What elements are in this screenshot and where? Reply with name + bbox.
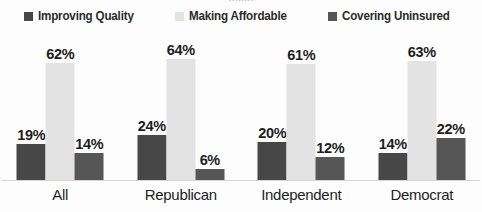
clipped-title: ........ [0,0,482,2]
bar-slot: 62% [46,28,75,180]
category-label-republican: Republican [121,183,242,212]
bar-slot: 24% [137,28,166,180]
bar-value-label: 24% [138,118,166,134]
bar-slot: 63% [407,28,436,180]
bar-improving-quality[interactable] [378,153,407,180]
bar-improving-quality[interactable] [258,142,287,180]
category-label-independent: Independent [241,183,362,212]
bar-improving-quality[interactable] [17,144,46,180]
category-label-all: All [0,183,121,212]
bar-covering-uninsured[interactable] [316,157,345,180]
bar-making-affordable[interactable] [166,59,195,180]
category-axis: All Republican Independent Democrat [0,183,482,212]
bar-cluster: 24% 64% 6% [137,28,224,180]
axis-baseline [2,180,480,181]
legend-swatch-icon [175,12,184,21]
bar-slot: 12% [316,28,345,180]
bar-value-label: 14% [75,136,103,152]
bar-covering-uninsured[interactable] [75,153,104,180]
legend-label: Making Affordable [189,9,287,23]
bar-value-label: 12% [316,140,344,156]
legend-item-covering-uninsured[interactable]: Covering Uninsured [328,9,458,23]
grouped-bar-chart: ........ Improving Quality Making Afford… [0,0,482,212]
legend-swatch-icon [24,12,33,21]
bar-value-label: 61% [287,47,315,63]
bar-cluster: 20% 61% 12% [258,28,345,180]
bar-value-label: 63% [408,44,436,60]
bar-improving-quality[interactable] [137,135,166,180]
bar-covering-uninsured[interactable] [195,169,224,180]
bar-slot: 61% [287,28,316,180]
legend-item-making-affordable[interactable]: Making Affordable [175,9,294,23]
plot-area: 19% 62% 14% 24% [0,28,482,181]
bar-value-label: 6% [200,152,220,168]
bar-slot: 19% [17,28,46,180]
bar-value-label: 22% [437,121,465,137]
chart-legend: Improving Quality Making Affordable Cove… [0,8,482,24]
legend-label: Covering Uninsured [342,9,450,23]
bar-value-label: 14% [379,136,407,152]
bar-value-label: 19% [17,127,45,143]
bar-group-democrat: 14% 63% 22% [362,28,482,180]
bar-making-affordable[interactable] [287,64,316,180]
category-label-democrat: Democrat [362,183,482,212]
bar-cluster: 19% 62% 14% [17,28,104,180]
bar-making-affordable[interactable] [46,63,75,180]
legend-label: Improving Quality [38,9,134,23]
bar-slot: 64% [166,28,195,180]
bar-group-independent: 20% 61% 12% [241,28,362,180]
bar-slot: 22% [436,28,465,180]
bar-value-label: 64% [167,42,195,58]
bar-slot: 14% [378,28,407,180]
bar-slot: 14% [75,28,104,180]
bar-value-label: 20% [258,125,286,141]
bar-making-affordable[interactable] [407,61,436,180]
bar-cluster: 14% 63% 22% [378,28,465,180]
bar-slot: 6% [195,28,224,180]
legend-swatch-icon [328,12,337,21]
bar-group-republican: 24% 64% 6% [121,28,242,180]
bar-slot: 20% [258,28,287,180]
bar-covering-uninsured[interactable] [436,138,465,180]
bar-groups: 19% 62% 14% 24% [0,28,482,180]
bar-value-label: 62% [46,46,74,62]
legend-item-improving-quality[interactable]: Improving Quality [24,9,141,23]
bar-group-all: 19% 62% 14% [0,28,121,180]
